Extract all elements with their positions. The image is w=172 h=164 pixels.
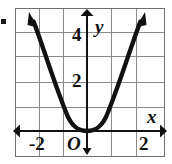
x-tick-label-negative-2: -2 (29, 134, 45, 153)
origin-label: O (67, 134, 81, 153)
y-tick-label-2: 2 (72, 71, 82, 90)
x-tick-label-2: 2 (139, 134, 149, 153)
y-axis-label: y (95, 17, 103, 36)
graph-figure: y x O 4 2 -2 2 (0, 0, 172, 164)
y-tick-label-4: 4 (72, 25, 82, 44)
x-axis-label: x (147, 107, 157, 126)
